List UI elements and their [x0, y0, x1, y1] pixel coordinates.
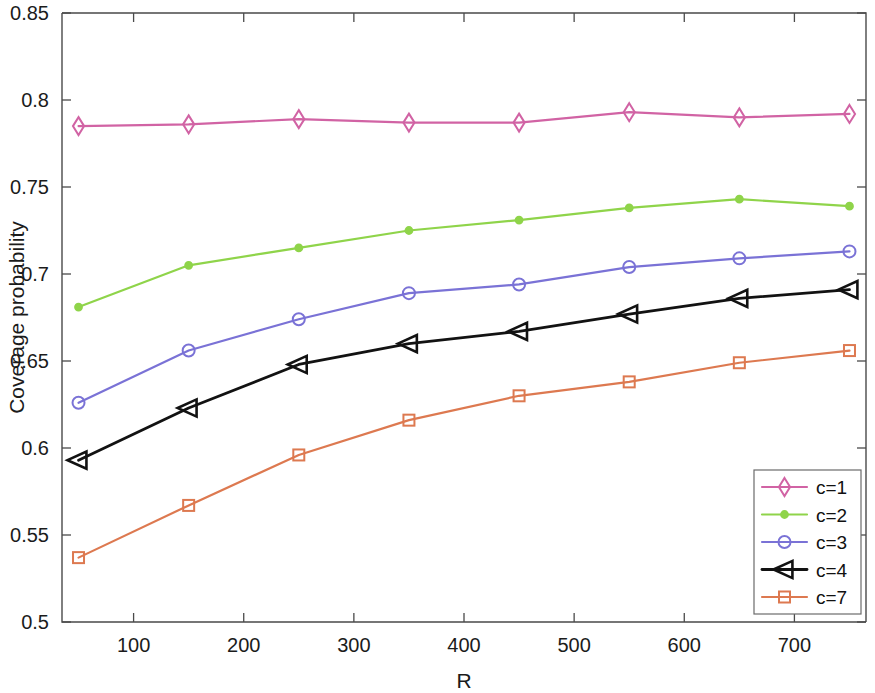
x-tick-label-200: 200 [227, 634, 260, 656]
marker-c=2-3 [405, 227, 412, 234]
marker-c=2-legend [781, 511, 788, 518]
legend-label-c=7: c=7 [816, 587, 847, 608]
plot-background [62, 13, 866, 622]
marker-c=2-4 [515, 216, 522, 223]
x-tick-label-500: 500 [557, 634, 590, 656]
marker-c=2-6 [736, 196, 743, 203]
marker-c=2-0 [75, 303, 82, 310]
x-tick-label-600: 600 [668, 634, 701, 656]
y-tick-label-0.55: 0.55 [10, 524, 49, 546]
x-tick-label-700: 700 [778, 634, 811, 656]
x-tick-label-300: 300 [337, 634, 370, 656]
y-tick-label-0.5: 0.5 [21, 611, 49, 633]
marker-c=2-2 [295, 244, 302, 251]
legend-label-c=2: c=2 [816, 505, 847, 526]
legend-label-c=1: c=1 [816, 477, 847, 498]
legend-label-c=4: c=4 [816, 560, 848, 581]
x-tick-label-100: 100 [117, 634, 150, 656]
figure-canvas: 1002003004005006007000.50.550.60.650.70.… [0, 0, 875, 693]
y-axis-title: Coverage probability [5, 221, 28, 414]
y-tick-label-0.75: 0.75 [10, 176, 49, 198]
x-axis-title: R [456, 669, 471, 692]
line-chart: 1002003004005006007000.50.550.60.650.70.… [0, 0, 875, 693]
chart-legend[interactable]: c=1c=2c=3c=4c=7 [754, 470, 861, 614]
y-tick-label-0.6: 0.6 [21, 437, 49, 459]
marker-c=2-7 [846, 203, 853, 210]
legend-label-c=3: c=3 [816, 532, 847, 553]
marker-c=2-1 [185, 262, 192, 269]
y-tick-label-0.8: 0.8 [21, 89, 49, 111]
x-tick-label-400: 400 [447, 634, 480, 656]
y-tick-label-0.85: 0.85 [10, 2, 49, 24]
marker-c=2-5 [626, 204, 633, 211]
